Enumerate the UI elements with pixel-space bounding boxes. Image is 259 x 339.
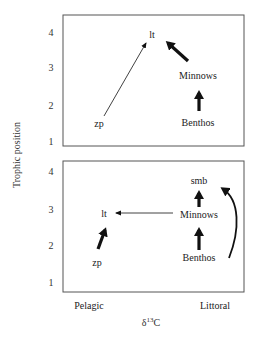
bottom-tick-1: 1: [49, 277, 54, 288]
top-tick-1: 1: [49, 136, 54, 147]
bottom-node-minnows: Minnows: [180, 209, 218, 220]
y-axis-label: Trophic position: [11, 122, 22, 188]
x-axis-pelagic-label: Pelagic: [74, 300, 104, 311]
top-node-minnows: Minnows: [179, 70, 217, 81]
bottom-panel: 4 3 2 1 smb lt Minnows Benthos zp: [49, 161, 245, 292]
top-node-lt: lt: [149, 29, 155, 40]
x-axis-label-suffix: C: [154, 317, 161, 328]
bottom-tick-4: 4: [49, 166, 54, 177]
bottom-node-smb: smb: [191, 175, 208, 186]
top-node-zp: zp: [94, 118, 103, 129]
bottom-tick-3: 3: [49, 204, 54, 215]
bottom-node-benthos: Benthos: [183, 252, 216, 263]
bottom-node-zp: zp: [92, 257, 101, 268]
top-tick-3: 3: [49, 62, 54, 73]
x-axis-label: δ13C: [142, 316, 161, 328]
top-tick-4: 4: [49, 27, 54, 38]
food-web-figure: Trophic position 4 3 2 1 lt Minnows Bent…: [0, 0, 259, 339]
top-node-benthos: Benthos: [182, 117, 215, 128]
bottom-panel-frame: [63, 161, 244, 292]
bottom-node-lt: lt: [101, 208, 107, 219]
bottom-tick-2: 2: [49, 240, 54, 251]
top-tick-2: 2: [49, 100, 54, 111]
x-axis-littoral-label: Littoral: [200, 300, 230, 311]
top-panel: 4 3 2 1 lt Minnows Benthos zp: [49, 15, 245, 147]
